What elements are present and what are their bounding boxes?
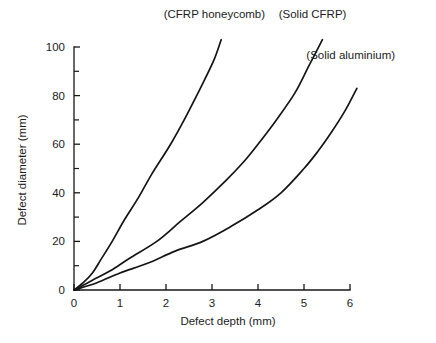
y-tick-label: 80 — [52, 90, 65, 102]
x-tick-label: 2 — [163, 297, 169, 309]
y-tick-label: 40 — [52, 187, 65, 199]
x-tick-label: 4 — [255, 297, 262, 309]
defect-diameter-vs-depth-chart: 020406080100 0123456 (CFRP honeycomb)(So… — [0, 0, 436, 343]
data-curves — [74, 40, 357, 290]
y-tick-label: 20 — [52, 235, 65, 247]
curve-series-1 — [74, 40, 322, 290]
y-axis-tick-labels: 020406080100 — [46, 41, 65, 296]
y-tick-label: 100 — [46, 41, 65, 53]
axes-group — [74, 47, 350, 290]
series-label-2: (Solid aluminium) — [306, 49, 395, 61]
x-axis-tick-labels: 0123456 — [71, 297, 353, 309]
curve-series-0 — [74, 40, 221, 290]
series-label-1: (Solid CFRP) — [279, 8, 347, 20]
y-tick-label: 0 — [59, 284, 65, 296]
x-axis-title: Defect depth (mm) — [180, 315, 275, 327]
x-axis-ticks — [74, 284, 350, 290]
series-annotations: (CFRP honeycomb)(Solid CFRP)(Solid alumi… — [164, 8, 396, 61]
y-axis-ticks — [74, 47, 80, 290]
y-tick-label: 60 — [52, 138, 65, 150]
x-tick-label: 3 — [209, 297, 215, 309]
y-axis-title: Defect diameter (mm) — [16, 114, 28, 225]
x-tick-label: 1 — [117, 297, 123, 309]
series-label-0: (CFRP honeycomb) — [164, 8, 266, 20]
chart-figure: 020406080100 0123456 (CFRP honeycomb)(So… — [0, 0, 436, 343]
x-tick-label: 0 — [71, 297, 77, 309]
x-tick-label: 5 — [301, 297, 307, 309]
curve-series-2 — [74, 88, 357, 290]
x-tick-label: 6 — [347, 297, 353, 309]
